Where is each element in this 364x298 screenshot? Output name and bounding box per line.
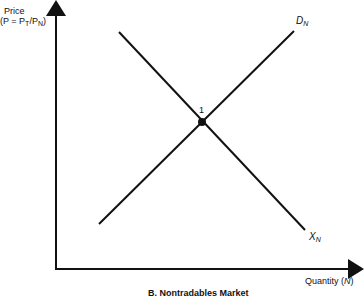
equilibrium-label: 1 xyxy=(199,105,204,115)
x-axis-label: Quantity (N) xyxy=(305,276,354,286)
demand-curve-dn xyxy=(99,31,294,224)
equilibrium-point xyxy=(198,118,206,126)
supply-curve-label: XN xyxy=(309,232,321,245)
y-axis-label: Price xyxy=(4,6,25,16)
diagram-caption: B. Nontradables Market xyxy=(148,288,249,298)
demand-curve-label: DN xyxy=(296,16,308,29)
supply-curve-xn xyxy=(119,32,305,230)
y-axis-formula: (P = PT/PN) xyxy=(0,16,46,29)
